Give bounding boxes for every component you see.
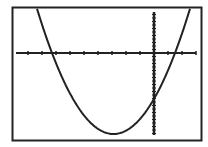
screen-border xyxy=(13,8,202,141)
calculator-graph-screen xyxy=(0,0,208,147)
graph-plot xyxy=(0,0,208,147)
parabola-curve xyxy=(37,9,190,134)
